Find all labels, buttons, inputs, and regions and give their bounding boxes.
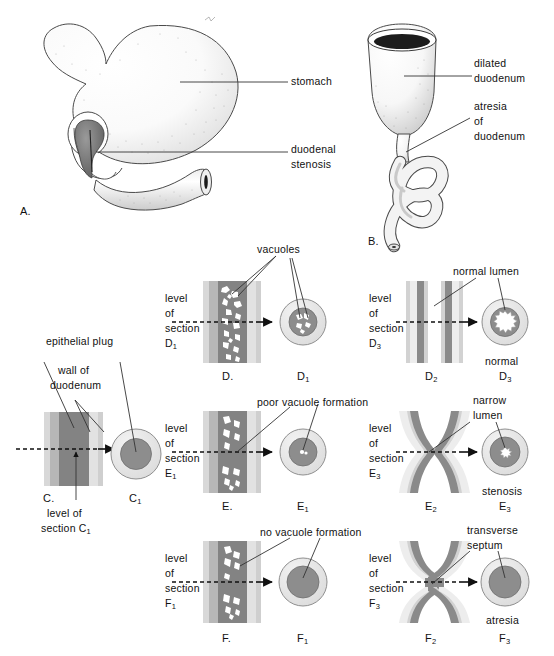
label-d3-status: normal xyxy=(485,355,518,368)
e1-small-vacuole xyxy=(300,450,304,454)
label-level-f3-l3: section xyxy=(369,582,404,595)
label-level-e1-l2: of xyxy=(165,437,174,450)
label-epithelial-plug: epithelial plug xyxy=(46,335,113,348)
label-transverse-septum-line2: septum xyxy=(467,539,503,552)
label-poor-vacuole-formation: poor vacuole formation xyxy=(257,396,368,409)
panel-id-d2: D2 xyxy=(425,370,438,384)
panel-id-d: D. xyxy=(222,370,233,382)
label-atresia-line2: of xyxy=(474,115,483,128)
label-vacuoles: vacuoles xyxy=(257,243,300,256)
panel-id-e1: E1 xyxy=(297,500,309,514)
illustration-svg xyxy=(0,0,554,656)
label-level-e1-l3: section xyxy=(165,452,200,465)
panel-a-stomach-illustration xyxy=(44,17,288,210)
f3-atretic-core xyxy=(489,566,521,598)
panel-id-c1: C1 xyxy=(129,492,142,506)
label-atresia-line1: atresia xyxy=(474,100,507,113)
label-level-d1-l3: section xyxy=(165,322,200,335)
label-narrow-lumen-line2: lumen xyxy=(473,409,503,422)
label-level-d3-l1: level xyxy=(369,292,392,305)
label-level-e3-l1: level xyxy=(369,422,392,435)
figure-canvas: stomach duodenal stenosis A. dilated duo… xyxy=(0,0,554,656)
label-level-of-section-c1-line2: section C1 xyxy=(41,522,91,539)
panel-id-d1: D1 xyxy=(297,370,310,384)
panel-id-f2: F2 xyxy=(425,632,436,646)
label-level-of-section-c1-line1: level of xyxy=(47,507,82,520)
label-level-f1-l2: of xyxy=(165,567,174,580)
panel-id-e3: E3 xyxy=(499,500,511,514)
label-level-e1-l1: level xyxy=(165,422,188,435)
label-level-f3-l4: F3 xyxy=(369,597,380,614)
label-level-d1-l1: level xyxy=(165,292,188,305)
label-level-d3-l2: of xyxy=(369,307,378,320)
label-level-d1-l2: of xyxy=(165,307,174,320)
label-atresia-line3: duodenum xyxy=(474,130,525,143)
label-dilated-duodenum-line2: duodenum xyxy=(474,72,525,85)
panel-id-a: A. xyxy=(20,205,31,217)
label-level-e1-l4: E1 xyxy=(165,467,177,484)
label-level-f1-l1: level xyxy=(165,552,188,565)
panel-id-e2: E2 xyxy=(425,500,437,514)
label-duodenal-stenosis-line1: duodenal xyxy=(291,143,336,156)
label-level-d3-l4: D3 xyxy=(369,337,381,354)
label-transverse-septum-line1: transverse xyxy=(467,524,518,537)
label-level-e3-l4: E3 xyxy=(369,467,381,484)
label-normal-lumen: normal lumen xyxy=(453,265,519,278)
panel-id-c: C. xyxy=(43,492,54,504)
label-wall-of-duodenum-line1: wall of xyxy=(58,364,89,377)
panel-id-f3: F3 xyxy=(499,632,510,646)
label-stomach: stomach xyxy=(291,75,332,88)
panel-id-f: F. xyxy=(222,632,231,644)
label-level-f1-l3: section xyxy=(165,582,200,595)
label-dilated-duodenum-line1: dilated xyxy=(474,57,506,70)
label-narrow-lumen-line1: narrow xyxy=(473,394,506,407)
label-no-vacuole-formation: no vacuole formation xyxy=(260,526,361,539)
label-level-f1-l4: F1 xyxy=(165,597,176,614)
panel-id-f1: F1 xyxy=(297,632,308,646)
label-duodenal-stenosis-line2: stenosis xyxy=(291,158,331,171)
label-level-d1-l4: D1 xyxy=(165,337,177,354)
label-level-d3-l3: section xyxy=(369,322,404,335)
label-wall-of-duodenum-line2: duodenum xyxy=(50,379,101,392)
f1-solid-core xyxy=(287,566,319,598)
label-e3-status: stenosis xyxy=(482,485,522,498)
panel-id-e: E. xyxy=(222,500,233,512)
panel-b-atresia-illustration xyxy=(368,24,472,250)
label-level-e3-l3: section xyxy=(369,452,404,465)
label-level-e3-l2: of xyxy=(369,437,378,450)
panel-id-d3: D3 xyxy=(499,370,512,384)
c1-plug-core xyxy=(121,439,152,470)
label-level-f3-l1: level xyxy=(369,552,392,565)
label-level-f3-l2: of xyxy=(369,567,378,580)
label-f3-status: atresia xyxy=(486,614,519,627)
e1-small-vacuole-2 xyxy=(304,451,307,454)
panel-id-b: B. xyxy=(368,235,379,247)
